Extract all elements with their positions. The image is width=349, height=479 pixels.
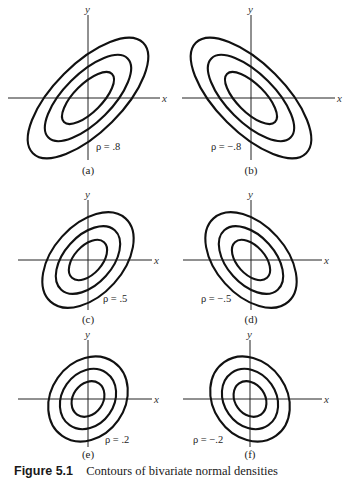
rho-label: ρ = −.5 [201,293,231,304]
x-axis-label: x [153,393,159,405]
panel-d: xyρ = −.5(d) [183,188,329,326]
panel-b: xyρ = −.8(b) [172,3,342,177]
rho-label: ρ = .5 [103,293,127,304]
x-axis-label: x [323,393,329,405]
panel-label: (d) [245,313,258,326]
rho-label: ρ = −.2 [193,434,223,445]
panel-label: (c) [82,313,95,326]
panel-label: (e) [82,448,95,461]
figure-caption: Figure 5.1 Contours of bivariate normal … [14,464,278,479]
caption-label: Figure 5.1 [14,464,73,478]
y-axis-label: y [247,3,253,15]
panel-a: xyρ = .8(a) [8,3,167,177]
panel-label: (f) [245,448,256,461]
y-axis-label: y [247,188,253,200]
y-axis-label: y [84,3,90,15]
panel-label: (a) [82,164,95,177]
panel-c: xyρ = .5(c) [18,188,159,326]
panel-label: (b) [245,164,258,177]
rho-label: ρ = .8 [96,141,120,152]
caption-text: Contours of bivariate normal densities [86,464,278,478]
y-axis-label: y [84,328,90,340]
x-axis-label: x [336,92,342,104]
x-axis-label: x [153,254,159,266]
x-axis-label: x [161,92,167,104]
x-axis-label: x [323,254,329,266]
y-axis-label: y [84,188,90,200]
panel-f: xyρ = −.2(f) [183,328,329,461]
rho-label: ρ = .2 [105,434,129,445]
rho-label: ρ = −.8 [211,141,241,152]
panel-e: xyρ = .2(e) [18,328,159,461]
y-axis-label: y [246,328,252,340]
